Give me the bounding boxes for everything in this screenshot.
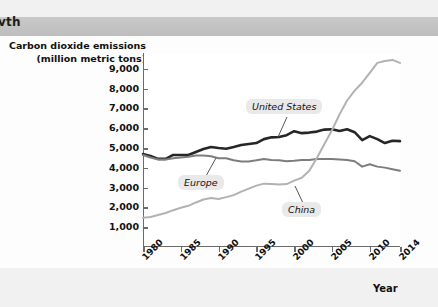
y-tick-mark [143,227,148,229]
x-tick-label: 2014 [397,237,422,262]
y-tick-label: 9,000 [91,63,139,74]
x-axis-title: Year [373,283,398,294]
callout-china: China [282,202,321,217]
y-tick-mark [143,69,148,71]
y-tick-label: 8,000 [91,83,139,94]
y-tick-mark [143,108,148,110]
y-tick-label: 2,000 [91,201,139,212]
y-tick-mark [143,148,148,150]
y-tick-label: 1,000 [91,221,139,232]
callout-europe: Europe [178,175,224,190]
plot-area [143,53,400,247]
y-tick-mark [143,89,148,91]
y-tick-mark [143,128,148,130]
callout-united-states: United States [246,99,322,114]
y-tick-mark [143,188,148,190]
page-root: vth Carbon dioxide emissions (million me… [0,0,438,307]
y-tick-mark [143,207,148,209]
y-tick-label: 6,000 [91,122,139,133]
y-tick-label: 7,000 [91,102,139,113]
line-chart: 9,0008,0007,0006,0005,0004,0003,0002,000… [0,0,438,307]
y-tick-label: 4,000 [91,162,139,173]
y-tick-label: 3,000 [91,182,139,193]
y-tick-label: 5,000 [91,142,139,153]
y-tick-mark [143,168,148,170]
